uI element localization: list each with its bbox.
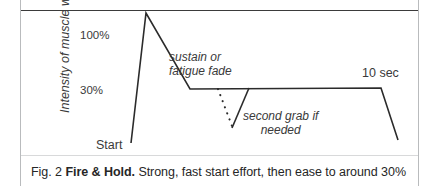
- chart-plot-area: Intensity of muscle work 100% 30% Start …: [21, 10, 418, 156]
- figure-page: Intensity of muscle work 100% 30% Start …: [0, 0, 439, 186]
- figure-caption: Fig. 2 Fire & Hold. Strong, fast start e…: [31, 165, 421, 179]
- annotation-ten-sec: 10 sec: [362, 66, 399, 81]
- y-axis-title: Intensity of muscle work: [58, 0, 72, 113]
- caption-figure-title: Fire & Hold.: [65, 165, 135, 179]
- annotation-second-grab-line-1: second grab if: [243, 109, 318, 123]
- annotation-sustain-line-2: fatigue fade: [169, 64, 232, 78]
- caption-figure-number: Fig. 2: [31, 165, 62, 179]
- annotation-sustain-or-fatigue-fade: sustain or fatigue fade: [169, 50, 232, 78]
- y-tick-label-100: 100%: [80, 29, 109, 43]
- caption-figure-text: Strong, fast start effort, then ease to …: [138, 165, 406, 179]
- annotation-sustain-line-1: sustain or: [169, 50, 221, 64]
- page-right-rule: [418, 0, 419, 186]
- annotation-second-grab-if-needed: second grab if needed: [243, 109, 318, 137]
- fatigue-fade-dotted-line: [218, 89, 232, 126]
- annotation-start: Start: [96, 138, 122, 153]
- y-tick-label-30: 30%: [80, 84, 103, 98]
- annotation-second-grab-line-2: needed: [243, 123, 318, 137]
